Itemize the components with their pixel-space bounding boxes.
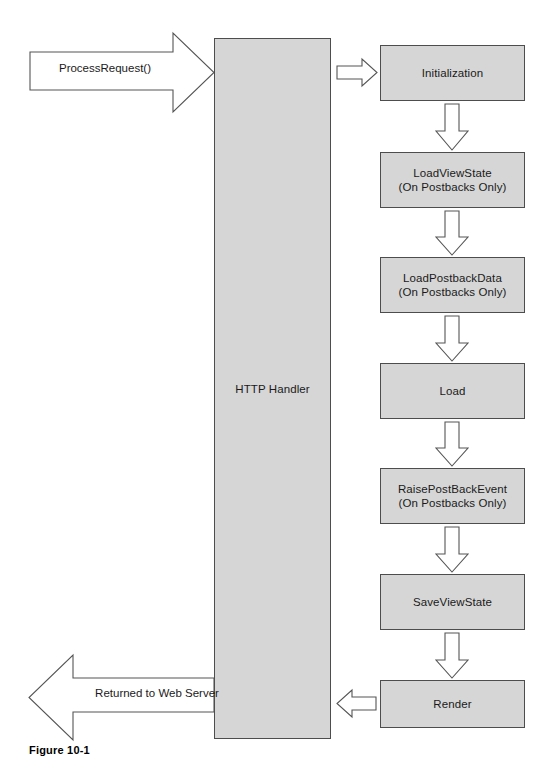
stage-box-initialization: Initialization xyxy=(380,45,525,101)
render-to-handler-arrow xyxy=(337,690,376,717)
stage-label: RaisePostBackEvent (On Postbacks Only) xyxy=(398,482,507,510)
stage-box-loadpostbackdata: LoadPostbackData (On Postbacks Only) xyxy=(380,257,525,313)
returned-to-web-server-label: Returned to Web Server xyxy=(62,687,252,699)
stage-box-loadviewstate: LoadViewState (On Postbacks Only) xyxy=(380,152,525,208)
stage-label: Render xyxy=(433,697,471,711)
http-handler-box: HTTP Handler xyxy=(214,38,331,739)
process-request-label: ProcessRequest() xyxy=(30,62,180,74)
figure-caption: Figure 10-1 xyxy=(29,744,90,756)
stage-box-load: Load xyxy=(380,363,525,419)
stage-box-raisepostbackevent: RaisePostBackEvent (On Postbacks Only) xyxy=(380,468,525,524)
stage-box-render: Render xyxy=(380,680,525,728)
handler-to-initialization-arrow xyxy=(337,59,377,86)
stage-label: Load xyxy=(440,384,466,398)
stage-arrow-5-to-6 xyxy=(436,633,468,678)
stage-arrow-2-to-3 xyxy=(436,316,468,361)
stage-box-saveviewstate: SaveViewState xyxy=(380,574,525,630)
stage-label: Initialization xyxy=(422,66,484,80)
stage-label: SaveViewState xyxy=(413,595,492,609)
stage-label: LoadPostbackData (On Postbacks Only) xyxy=(399,271,507,299)
stage-label: LoadViewState (On Postbacks Only) xyxy=(399,166,507,194)
stage-arrow-1-to-2 xyxy=(436,211,468,255)
stage-arrow-0-to-1 xyxy=(436,104,468,150)
stage-arrow-4-to-5 xyxy=(436,527,468,572)
page-lifecycle-diagram: HTTP Handler Initialization LoadViewStat… xyxy=(0,0,552,779)
stage-arrow-3-to-4 xyxy=(436,422,468,466)
http-handler-label: HTTP Handler xyxy=(235,382,309,396)
